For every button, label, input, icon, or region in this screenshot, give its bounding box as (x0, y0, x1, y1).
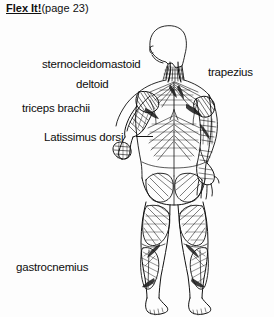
label-triceps-brachii: triceps brachii (22, 102, 90, 114)
label-sternocleidomastoid: sternocleidomastoid (42, 58, 140, 70)
label-gastrocnemius: gastrocnemius (16, 261, 88, 273)
worksheet-page: Flex It!(page 23) (0, 0, 274, 317)
leader-line-latissimus-dorsi (136, 136, 153, 137)
label-deltoid: deltoid (76, 78, 109, 90)
label-latissimus-dorsi: Latissimus dorsi (44, 131, 123, 143)
label-trapezius: trapezius (208, 66, 253, 78)
